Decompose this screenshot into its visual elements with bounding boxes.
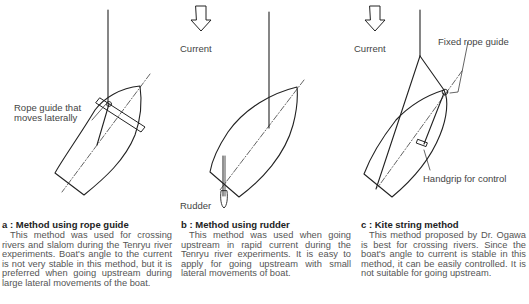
caption-b: b : Method using rudder This method was … (181, 220, 351, 279)
caption-b-title: b : Method using rudder (181, 220, 351, 230)
current-label-c: Current (354, 44, 386, 54)
caption-b-text: This method was used when going upstream… (181, 230, 351, 278)
current-label-b: Current (180, 44, 212, 54)
caption-a-text: This method was used for crossing rivers… (2, 230, 172, 288)
current-arrow-c (365, 6, 385, 31)
current-arrow-b (191, 6, 211, 31)
rope-guide-label: Rope guide that moves laterally (14, 103, 81, 123)
fixed-rope-guide-label: Fixed rope guide (438, 37, 509, 47)
caption-c-body: This method proposed by Dr. Ogawa is bes… (361, 231, 526, 279)
handgrip-label: Handgrip for control (423, 174, 506, 184)
caption-a-body: This method was used for crossing rivers… (2, 231, 172, 289)
caption-c-text: This method proposed by Dr. Ogawa is bes… (361, 230, 526, 278)
caption-b-body: This method was used when going upstream… (181, 231, 351, 279)
caption-a: a : Method using rope guide This method … (2, 220, 172, 289)
caption-a-title: a : Method using rope guide (2, 220, 172, 230)
rudder-label: Rudder (180, 201, 211, 211)
figure-b-boat (210, 12, 304, 208)
caption-c: c : Kite string method This method propo… (361, 220, 526, 279)
caption-c-title: c : Kite string method (361, 220, 526, 230)
